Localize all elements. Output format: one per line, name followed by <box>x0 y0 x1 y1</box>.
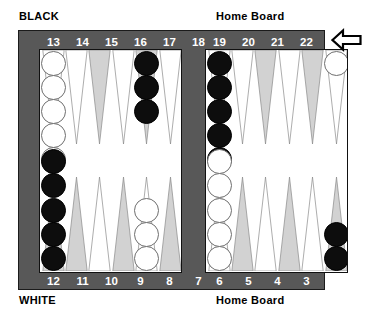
point-number-19: 19 <box>205 36 234 48</box>
checker-black-point-12[interactable] <box>41 246 66 271</box>
point-number-13: 13 <box>39 36 68 48</box>
checker-white-point-24[interactable] <box>324 51 349 76</box>
board-panel-right <box>205 49 348 273</box>
point-number-16: 16 <box>126 36 155 48</box>
point-triangle-18[interactable] <box>159 50 182 144</box>
point-number-row-bottom-right: 654321 <box>205 273 369 288</box>
point-number-row-top-left: 131415161718 <box>39 34 213 49</box>
checker-white-point-6[interactable] <box>207 149 232 174</box>
black-player-label: BLACK <box>19 10 59 22</box>
checker-white-point-6[interactable] <box>207 222 232 247</box>
checker-black-point-1[interactable] <box>324 222 349 247</box>
point-triangle-23[interactable] <box>301 50 324 144</box>
point-triangle-3[interactable] <box>278 177 301 271</box>
point-number-1: 1 <box>350 275 369 287</box>
backgammon-board: 131415161718 192021222324 121110987 6543… <box>18 30 325 290</box>
point-number-10: 10 <box>97 275 126 287</box>
checker-black-point-19[interactable] <box>207 123 232 148</box>
point-triangle-10[interactable] <box>88 177 111 271</box>
point-number-20: 20 <box>234 36 263 48</box>
point-number-8: 8 <box>155 275 184 287</box>
checker-white-point-13[interactable] <box>41 123 66 148</box>
white-player-label: WHITE <box>19 294 56 306</box>
point-number-6: 6 <box>205 275 234 287</box>
checker-white-point-13[interactable] <box>41 51 66 76</box>
point-number-9: 9 <box>126 275 155 287</box>
checker-black-point-12[interactable] <box>41 173 66 198</box>
checker-black-point-17[interactable] <box>134 51 159 76</box>
checker-white-point-8[interactable] <box>134 198 159 223</box>
point-triangle-2[interactable] <box>301 177 324 271</box>
checker-black-point-19[interactable] <box>207 51 232 76</box>
point-number-2: 2 <box>321 275 350 287</box>
point-number-11: 11 <box>68 275 97 287</box>
board-panel-left: 6 <box>39 49 182 273</box>
checker-black-point-19[interactable] <box>207 75 232 100</box>
home-board-label-bottom: Home Board <box>216 294 284 306</box>
point-number-row-bottom-left: 121110987 <box>39 273 213 288</box>
point-triangle-7[interactable] <box>159 177 182 271</box>
checker-white-point-8[interactable] <box>134 222 159 247</box>
checker-white-point-6[interactable] <box>207 198 232 223</box>
checker-white-point-13[interactable] <box>41 75 66 100</box>
point-triangle-9[interactable] <box>112 177 135 271</box>
checker-black-point-1[interactable] <box>324 246 349 271</box>
checker-black-point-12[interactable] <box>41 198 66 223</box>
point-number-14: 14 <box>68 36 97 48</box>
checker-black-point-17[interactable] <box>134 99 159 124</box>
checker-black-point-12[interactable] <box>41 149 66 174</box>
point-triangle-14[interactable] <box>65 50 88 144</box>
point-number-4: 4 <box>263 275 292 287</box>
point-number-15: 15 <box>97 36 126 48</box>
point-triangle-11[interactable] <box>65 177 88 271</box>
point-triangle-20[interactable] <box>231 50 254 144</box>
point-triangle-16[interactable] <box>112 50 135 144</box>
point-triangle-21[interactable] <box>254 50 277 144</box>
point-triangle-5[interactable] <box>231 177 254 271</box>
arrow-left-icon <box>331 28 362 52</box>
checker-white-point-8[interactable] <box>134 246 159 271</box>
checker-white-point-6[interactable] <box>207 246 232 271</box>
point-number-5: 5 <box>234 275 263 287</box>
home-board-label-top: Home Board <box>216 10 284 22</box>
point-number-17: 17 <box>155 36 184 48</box>
point-number-21: 21 <box>263 36 292 48</box>
checker-white-point-6[interactable] <box>207 173 232 198</box>
checker-black-point-19[interactable] <box>207 99 232 124</box>
checker-black-point-17[interactable] <box>134 75 159 100</box>
checker-black-point-12[interactable] <box>41 222 66 247</box>
checker-white-point-13[interactable] <box>41 99 66 124</box>
point-triangle-22[interactable] <box>278 50 301 144</box>
point-number-12: 12 <box>39 275 68 287</box>
point-triangle-4[interactable] <box>254 177 277 271</box>
point-number-3: 3 <box>292 275 321 287</box>
point-number-22: 22 <box>292 36 321 48</box>
point-triangle-15[interactable] <box>88 50 111 144</box>
